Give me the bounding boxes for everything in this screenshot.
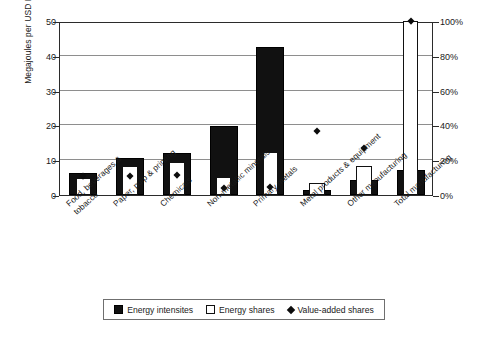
chart-legend: Energy intensites Energy shares Value-ad… <box>103 299 385 320</box>
y-tick-label-right: 80% <box>440 52 458 62</box>
y-tick-mark-left <box>53 196 59 197</box>
marker-value-added-shares <box>313 128 321 136</box>
chart-figure: Megajoules per USD PPP 2000 01020304050 … <box>0 0 487 338</box>
legend-item-energy-shares: Energy shares <box>206 305 274 315</box>
open-square-icon <box>206 305 215 314</box>
legend-item-energy-intensites: Energy intensites <box>114 305 193 315</box>
legend-label: Value-added shares <box>298 305 374 315</box>
filled-square-icon <box>114 305 123 314</box>
legend-item-value-added-shares: Value-added shares <box>288 305 374 315</box>
y-tick-label-right: 0% <box>440 191 453 201</box>
y-tick-mark-right <box>433 196 439 197</box>
y-tick-label-right: 100% <box>440 17 463 27</box>
filled-diamond-icon <box>286 305 294 313</box>
bar-energy-shares <box>403 21 418 195</box>
legend-label: Energy shares <box>219 305 274 315</box>
y-tick-label-right: 40% <box>440 121 458 131</box>
y-tick-label-right: 60% <box>440 87 458 97</box>
legend-label: Energy intensites <box>127 305 193 315</box>
